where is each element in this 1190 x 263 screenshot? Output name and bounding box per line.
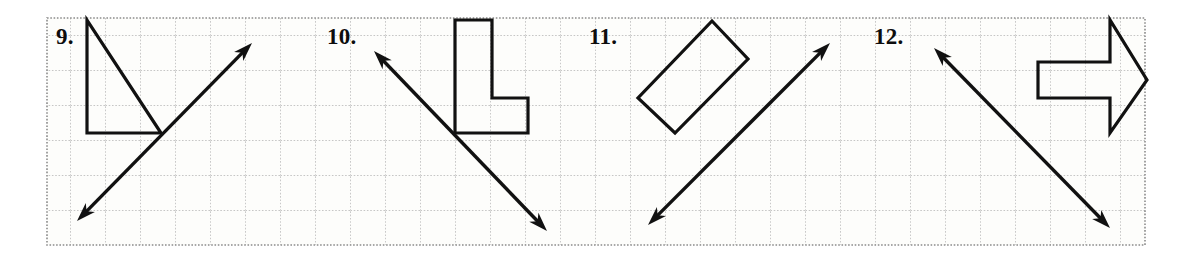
- grid-lines: [47, 18, 1145, 245]
- problem-label-12: 12.: [874, 25, 903, 48]
- problem-label-10: 10.: [327, 25, 356, 48]
- problem-label-11: 11.: [589, 25, 617, 48]
- problem-label-9: 9.: [56, 25, 74, 48]
- worksheet-page: 9. 10. 11. 12.: [0, 0, 1190, 263]
- graph-paper: [47, 18, 1145, 245]
